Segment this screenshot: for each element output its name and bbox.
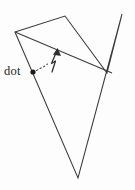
dot-point-marker — [30, 69, 35, 74]
geometry-figure: dot — [0, 0, 135, 190]
dot-label-text: dot — [4, 64, 21, 78]
figure-canvas — [0, 0, 135, 190]
curved-up-arrow-shaft — [52, 53, 57, 72]
curved-up-arrow-head — [54, 49, 61, 56]
dashed-leader-line — [37, 64, 48, 71]
